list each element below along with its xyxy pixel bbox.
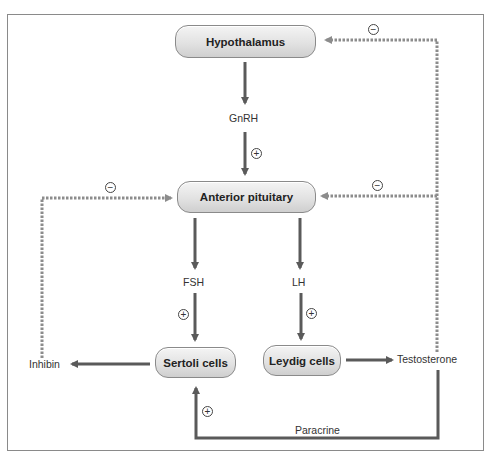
node-anterior-pituitary: Anterior pituitary [177,181,316,213]
label-paracrine: Paracrine [295,424,340,436]
plus-icon-paracrine: + [202,406,213,417]
label-fsh: FSH [183,276,204,288]
plus-icon-fsh: + [178,309,189,320]
minus-icon-testosterone-hypothalamus: − [368,24,379,35]
plus-icon-gnrh: + [251,148,262,159]
connector-arrows [0,0,490,461]
label-testosterone: Testosterone [397,353,457,365]
label-gnrh: GnRH [229,112,258,124]
label-lh: LH [292,276,305,288]
label-inhibin: Inhibin [29,358,60,370]
minus-icon-inhibin-pituitary: − [105,182,116,193]
plus-icon-lh: + [306,308,317,319]
node-hypothalamus: Hypothalamus [175,25,316,58]
minus-icon-testosterone-pituitary: − [372,180,383,191]
feedback-inhibin-to-pituitary [42,198,171,358]
node-leydig-cells: Leydig cells [263,345,341,376]
node-sertoli-cells: Sertoli cells [155,347,236,378]
